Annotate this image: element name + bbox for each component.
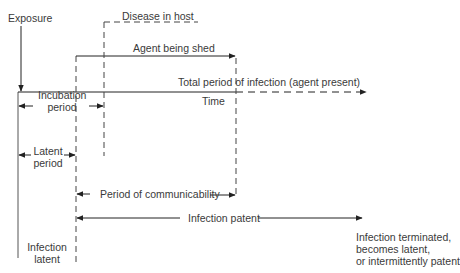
time-label: Time <box>202 95 225 107</box>
infection-latent-line1: Infection <box>26 241 68 253</box>
period-of-communicability-label: Period of communicability <box>100 188 220 200</box>
total-period-label: Total period of infection (agent present… <box>178 76 360 88</box>
exposure-label: Exposure <box>8 12 52 24</box>
outcome-line2: becomes latent, <box>356 243 460 255</box>
latent-line2: period <box>32 157 64 169</box>
incubation-period-label: Incubation period <box>38 89 86 113</box>
infection-patent-label: Infection patent <box>188 212 260 224</box>
incubation-line2: period <box>38 101 86 113</box>
latent-line1: Latent <box>32 145 64 157</box>
agent-being-shed-label: Agent being shed <box>133 42 215 54</box>
outcome-line1: Infection terminated, <box>356 231 460 243</box>
infection-latent-line2: latent <box>26 253 68 265</box>
outcome-line3: or intermittently patent <box>356 255 460 267</box>
outcome-label: Infection terminated, becomes latent, or… <box>356 231 460 267</box>
disease-in-host-label: Disease in host <box>122 10 194 22</box>
infection-latent-label: Infection latent <box>26 241 68 265</box>
incubation-line1: Incubation <box>38 89 86 101</box>
latent-period-label: Latent period <box>32 145 64 169</box>
